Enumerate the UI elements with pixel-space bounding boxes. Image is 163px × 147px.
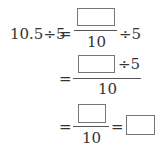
- numerator-input-2[interactable]: [78, 55, 115, 73]
- fraction-bar: [73, 126, 109, 127]
- denominator: 10: [82, 131, 101, 146]
- fraction-bar: [73, 78, 141, 79]
- equals-sign: =: [59, 27, 72, 42]
- lhs-expression: 10.5÷5: [10, 27, 66, 42]
- divide-five: ÷5: [119, 27, 141, 42]
- equals-sign: =: [111, 120, 124, 135]
- answer-input[interactable]: [126, 115, 155, 135]
- numerator-input-1[interactable]: [77, 8, 115, 26]
- equals-sign: =: [59, 72, 72, 87]
- fraction-bar: [74, 30, 117, 31]
- denominator: 10: [87, 35, 106, 50]
- denominator: 10: [98, 82, 117, 97]
- divide-five: ÷5: [118, 57, 140, 72]
- equals-sign: =: [59, 120, 72, 135]
- numerator-input-3[interactable]: [78, 104, 106, 123]
